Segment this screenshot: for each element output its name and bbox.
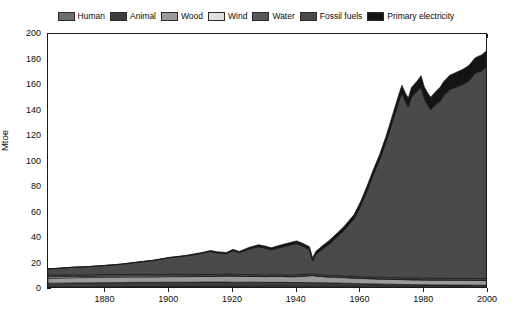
plot-area bbox=[47, 33, 487, 288]
legend-swatch-icon bbox=[252, 12, 269, 21]
legend-swatch-icon bbox=[208, 12, 225, 21]
y-axis-title: Mtoe bbox=[0, 130, 10, 151]
y-tick-label: 60 bbox=[31, 207, 41, 217]
y-tick-label: 20 bbox=[31, 258, 41, 268]
x-tick-label: 2000 bbox=[477, 294, 497, 304]
plot-frame bbox=[47, 33, 487, 288]
legend-item-fossil-fuels[interactable]: Fossil fuels bbox=[300, 11, 363, 21]
y-tick-label: 40 bbox=[31, 232, 41, 242]
legend-swatch-icon bbox=[110, 12, 127, 21]
legend-item-water[interactable]: Water bbox=[252, 11, 294, 21]
x-tick-mark bbox=[423, 288, 424, 292]
y-tick-label: 0 bbox=[36, 283, 41, 293]
x-tick-label: 1940 bbox=[286, 294, 306, 304]
x-tick-label: 1980 bbox=[413, 294, 433, 304]
legend-swatch-icon bbox=[161, 12, 178, 21]
chart-legend: HumanAnimalWoodWindWaterFossil fuelsPrim… bbox=[0, 11, 517, 21]
x-tick-mark bbox=[487, 288, 488, 292]
y-tick-label: 140 bbox=[26, 105, 41, 115]
y-tick-label: 200 bbox=[26, 28, 41, 38]
legend-item-wood[interactable]: Wood bbox=[161, 11, 203, 21]
legend-swatch-icon bbox=[300, 12, 317, 21]
legend-label: Wood bbox=[181, 11, 203, 21]
legend-label: Wind bbox=[228, 11, 247, 21]
legend-item-wind[interactable]: Wind bbox=[208, 11, 247, 21]
legend-swatch-icon bbox=[367, 12, 384, 21]
y-tick-label: 120 bbox=[26, 130, 41, 140]
x-tick-mark bbox=[359, 288, 360, 292]
legend-label: Water bbox=[272, 11, 294, 21]
x-tick-mark bbox=[296, 288, 297, 292]
legend-item-animal[interactable]: Animal bbox=[110, 11, 156, 21]
x-tick-mark bbox=[104, 288, 105, 292]
y-tick-label: 160 bbox=[26, 79, 41, 89]
y-tick-mark bbox=[47, 288, 51, 289]
legend-label: Animal bbox=[130, 11, 156, 21]
y-tick-label: 100 bbox=[26, 156, 41, 166]
legend-swatch-icon bbox=[58, 12, 75, 21]
energy-stacked-area-chart: HumanAnimalWoodWindWaterFossil fuelsPrim… bbox=[0, 0, 517, 317]
legend-label: Human bbox=[78, 11, 105, 21]
legend-item-primary-electricity[interactable]: Primary electricity bbox=[367, 11, 454, 21]
stacked-area-series-group bbox=[48, 34, 487, 288]
legend-item-human[interactable]: Human bbox=[58, 11, 105, 21]
x-tick-mark bbox=[232, 288, 233, 292]
x-tick-label: 1920 bbox=[222, 294, 242, 304]
x-tick-mark bbox=[168, 288, 169, 292]
x-tick-label: 1880 bbox=[94, 294, 114, 304]
y-tick-label: 180 bbox=[26, 54, 41, 64]
x-tick-mark-top bbox=[487, 34, 488, 38]
legend-label: Primary electricity bbox=[387, 11, 454, 21]
y-axis-tick-labels: 020406080100120140160180200 bbox=[0, 0, 41, 317]
x-tick-label: 1900 bbox=[158, 294, 178, 304]
legend-label: Fossil fuels bbox=[320, 11, 363, 21]
y-tick-label: 80 bbox=[31, 181, 41, 191]
x-tick-label: 1960 bbox=[349, 294, 369, 304]
